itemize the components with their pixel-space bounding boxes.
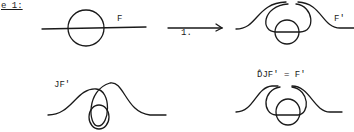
panel-djf-prime-drawing <box>236 86 342 125</box>
label-jf-prime: JF' <box>54 80 70 90</box>
panel-f-drawing <box>42 10 146 46</box>
figure-diagram <box>0 0 354 132</box>
arrow-label: 1. <box>181 28 192 38</box>
caption-fragment: e 1: <box>1 1 23 11</box>
arrow-icon <box>168 24 222 31</box>
label-f: F <box>117 14 122 24</box>
label-f-prime: F' <box>334 14 345 24</box>
label-djf-prime: D̂JF' = F' <box>257 70 306 80</box>
